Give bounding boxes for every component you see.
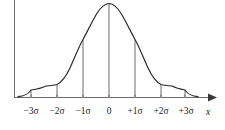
tick-label-zero: 0: [107, 106, 112, 116]
tick-label-plus-2-sigma: +2σ: [153, 106, 168, 116]
normal-distribution-figure: −3σ −2σ −1σ 0 +1σ +2σ +3σ x: [0, 0, 225, 130]
tick-label-minus-1-sigma: −1σ: [75, 106, 90, 116]
tick-label-plus-3-sigma: +3σ: [178, 106, 193, 116]
tick-label-minus-2-sigma: −2σ: [49, 106, 64, 116]
tick-label-plus-1-sigma: +1σ: [127, 106, 142, 116]
tick-label-minus-3-sigma: −3σ: [23, 106, 38, 116]
x-axis-arrow-icon: [208, 94, 217, 102]
gaussian-curve: [18, 4, 198, 97]
x-axis-label: x: [206, 107, 210, 117]
